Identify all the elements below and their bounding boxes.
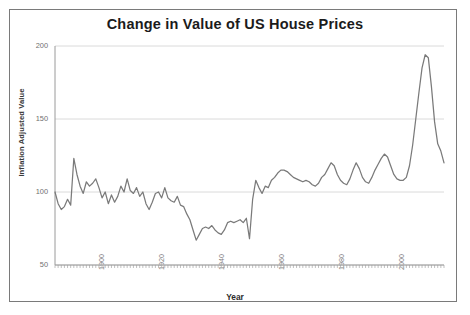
plot-area [0, 0, 470, 315]
data-series-line [55, 55, 444, 240]
figure-canvas: Change in Value of US House Prices Infla… [0, 0, 470, 315]
